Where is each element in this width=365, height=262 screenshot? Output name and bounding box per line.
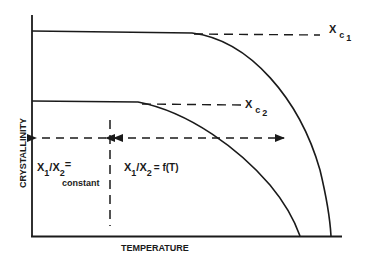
lower-plateau-extension-dashed (142, 104, 242, 105)
x-axis-label: TEMPERATURE (121, 243, 189, 253)
crystallinity-temperature-diagram: Xc1 Xc2 X1/X2= constant X1/X2= f(T) TEMP… (0, 0, 365, 262)
right-region-ratio-label: X1/X2= f(T) (124, 161, 179, 178)
y-axis-label: CRYSTALLINITY (18, 118, 28, 188)
xc1-label: Xc1 (329, 23, 351, 43)
upper-plateau-extension-dashed (194, 34, 320, 35)
upper-crystallinity-curve (32, 31, 331, 236)
xc2-label: Xc2 (245, 98, 267, 118)
left-region-ratio-label: X1/X2= (37, 158, 71, 178)
left-region-constant-label: constant (62, 178, 100, 188)
